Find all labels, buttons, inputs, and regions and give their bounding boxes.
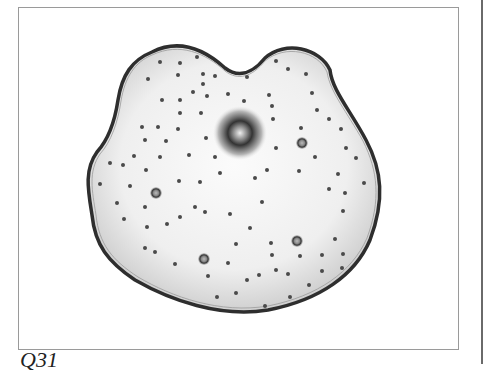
figure-caption: Q31 (20, 349, 58, 371)
cell-membrane (88, 46, 380, 312)
nucleus (213, 106, 267, 160)
